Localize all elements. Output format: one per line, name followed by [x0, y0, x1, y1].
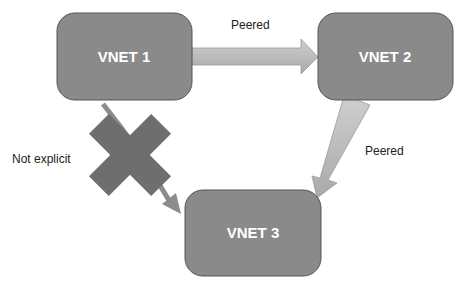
- node-vnet1[interactable]: VNET 1: [57, 13, 192, 100]
- node-label: VNET 2: [359, 48, 412, 65]
- peered-arrow-2-to-3: [312, 96, 370, 198]
- peered-arrow-1-to-2: [192, 39, 318, 74]
- node-vnet2[interactable]: VNET 2: [318, 13, 453, 100]
- node-label: VNET 3: [227, 224, 280, 241]
- edge-label-not-explicit: Not explicit: [12, 152, 71, 166]
- vnet-peering-diagram: VNET 1 VNET 2 VNET 3 Peered Peered Not e…: [0, 0, 468, 287]
- node-vnet3[interactable]: VNET 3: [185, 190, 321, 276]
- node-label: VNET 1: [98, 48, 151, 65]
- edge-label-peered-1-2: Peered: [231, 18, 270, 32]
- edge-label-peered-2-3: Peered: [365, 144, 404, 158]
